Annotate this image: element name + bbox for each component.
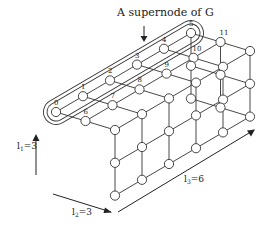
mesh-node <box>137 110 146 119</box>
mesh-node <box>191 144 200 153</box>
mesh-node <box>135 85 144 94</box>
mesh-node <box>186 61 195 70</box>
mesh-node <box>191 78 200 87</box>
mesh-node <box>132 60 141 69</box>
mesh-node <box>245 79 254 88</box>
node-label-11: 11 <box>220 29 229 37</box>
node-label-2: 2 <box>108 67 112 75</box>
mesh-node <box>218 128 227 137</box>
mesh-node <box>110 191 119 200</box>
mesh-node <box>78 92 87 101</box>
l3-arrow-icon <box>118 130 255 213</box>
l2-label: l2=3 <box>72 207 92 218</box>
mesh-node <box>216 37 225 46</box>
mesh-node <box>110 125 119 134</box>
mesh-node <box>81 116 90 125</box>
node-label-4: 4 <box>162 36 167 44</box>
supernode-caption: A supernode of G <box>116 6 214 19</box>
mesh-node <box>137 175 146 184</box>
node-label-9: 9 <box>165 61 169 69</box>
node-label-8: 8 <box>138 76 142 84</box>
mesh-node <box>162 69 171 78</box>
mesh-node <box>137 142 146 151</box>
supernode-pointer-arrow-icon <box>141 26 148 42</box>
mesh-node <box>105 76 114 85</box>
mesh-node <box>186 28 195 37</box>
node-label-7: 7 <box>111 92 115 100</box>
l1-label: l1=3 <box>17 141 37 152</box>
mesh-node <box>164 94 173 103</box>
mesh-node <box>191 111 200 120</box>
mesh-node <box>164 159 173 168</box>
node-label-1: 1 <box>81 83 85 91</box>
node-label-3: 3 <box>135 52 139 60</box>
mesh-node <box>186 94 195 103</box>
mesh-node <box>216 70 225 79</box>
node-label-5: 5 <box>189 20 193 28</box>
node-label-6: 6 <box>84 108 89 116</box>
mesh-node <box>164 127 173 136</box>
mesh-node <box>110 158 119 167</box>
mesh-node <box>159 44 168 53</box>
mesh-nodes <box>51 28 254 200</box>
mesh-node <box>51 107 60 116</box>
l3-label: l3=6 <box>184 174 204 185</box>
node-label-10: 10 <box>193 45 202 53</box>
mesh-node <box>216 103 225 112</box>
mesh-node <box>245 112 254 121</box>
node-label-0: 0 <box>54 99 58 107</box>
mesh-node <box>108 101 117 110</box>
mesh-diagram: 01234567891011 A supernode of G l1=3 l2=… <box>0 0 271 228</box>
3d-mesh-graph: 01234567891011 A supernode of G l1=3 l2=… <box>0 0 271 228</box>
mesh-node <box>245 46 254 55</box>
